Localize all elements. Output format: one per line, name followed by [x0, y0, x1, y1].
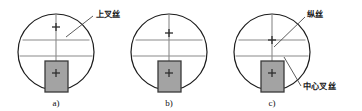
- annotation-upper-crosshair-label: 上叉丝: [96, 9, 121, 19]
- telescope-reticle-figure: a) b): [0, 0, 362, 111]
- annotation-vertical-hair-leader-line: [274, 17, 305, 47]
- panel-a: a): [18, 14, 94, 108]
- annotation-upper-crosshair: 上叉丝: [66, 9, 121, 37]
- panel-c-cross-mark: [268, 36, 276, 44]
- caption-c: c): [269, 98, 276, 108]
- panel-b-cross-mark: [165, 29, 173, 37]
- annotation-center-crosshair-leader-line: [284, 57, 301, 86]
- panel-a-cross-mark: [52, 23, 60, 31]
- figure-canvas: a) b): [0, 0, 362, 111]
- annotation-vertical-hair-label: 纵丝: [307, 9, 323, 19]
- caption-a: a): [53, 98, 60, 108]
- panel-b: b): [131, 14, 207, 108]
- panel-c: c): [234, 14, 310, 108]
- annotation-center-crosshair: 中心叉丝: [284, 57, 336, 91]
- annotation-center-crosshair-label: 中心叉丝: [303, 81, 336, 91]
- caption-b: b): [165, 98, 173, 108]
